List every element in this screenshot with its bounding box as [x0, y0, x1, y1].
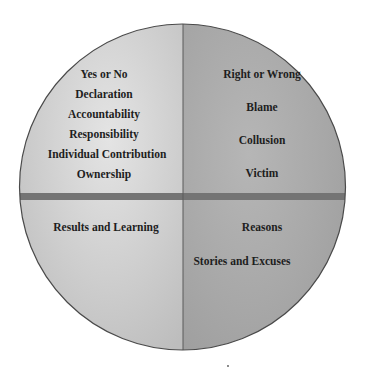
speck-mark: [227, 365, 229, 367]
quadrant-item: Responsibility: [69, 128, 139, 141]
quadrant-item: Victim: [246, 167, 279, 179]
quadrant-item: Results and Learning: [53, 221, 159, 234]
quadrant-item: Stories and Excuses: [193, 255, 291, 267]
quadrant-item: Individual Contribution: [48, 148, 167, 160]
quadrant-item: Accountability: [68, 108, 140, 121]
quadrant-item: Declaration: [75, 88, 133, 100]
quadrant-item: Blame: [246, 101, 277, 113]
quadrant-item: Collusion: [239, 134, 286, 146]
accountability-quadrant-diagram: Yes or No Declaration Accountability Res…: [0, 0, 365, 370]
quadrant-item: Reasons: [242, 221, 283, 233]
quadrant-item: Yes or No: [80, 68, 127, 80]
quadrant-bottom-left: Results and Learning: [53, 221, 159, 234]
quadrant-item: Right or Wrong: [223, 68, 301, 81]
quadrant-item: Ownership: [77, 168, 131, 181]
